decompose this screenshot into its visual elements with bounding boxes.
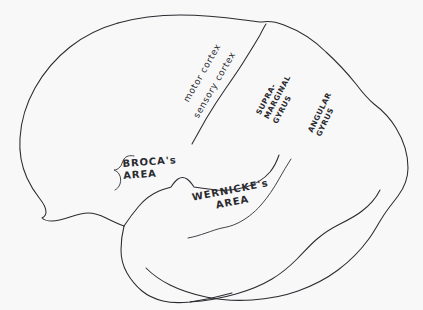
brain-diagram-canvas: motor cortex sensory cortex BROCA's AREA…: [0, 0, 423, 310]
temporal-lobe-front-outline-path: [121, 226, 232, 303]
frontal-lobe-left-outline-path: [20, 23, 124, 226]
central-sulcus-path: [192, 24, 266, 144]
label-brocas-area: BROCA's AREA: [122, 154, 178, 181]
